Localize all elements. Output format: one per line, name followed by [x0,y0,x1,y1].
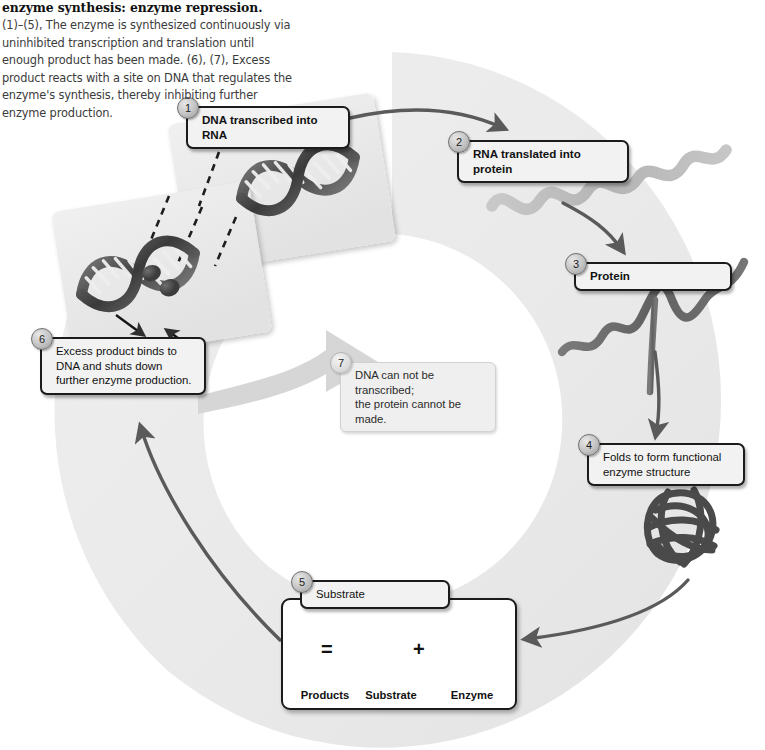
enzyme-label: Enzyme [435,689,509,701]
step-4-number: 4 [578,434,600,456]
step-6-box[interactable]: 6 Excess product binds to DNA and shuts … [40,337,206,395]
step-2-label: RNA translated into protein [473,147,617,176]
step-3-number: 3 [565,253,587,275]
step-2-box[interactable]: 2 RNA translated into protein [457,140,629,183]
step-5-number: 5 [291,571,313,593]
step-3-label: Protein [590,269,720,284]
caption-title: enzyme synthesis: enzyme repression. [2,0,292,15]
step-7-callout[interactable]: 7 DNA can not be transcribed; the protei… [340,362,496,432]
step-7-label: DNA can not be transcribed; the protein … [355,368,485,426]
caption-body: (1)–(5), The enzyme is synthesized conti… [2,17,292,123]
step-4-box[interactable]: 4 Folds to form functional enzyme struct… [587,443,745,486]
step-2-number: 2 [448,131,470,153]
equals-sign: = [321,638,333,661]
step-5-callout[interactable]: 5 Substrate [300,580,450,609]
figure-caption: enzyme synthesis: enzyme repression. (1)… [2,0,292,123]
step-4-callout[interactable]: 4 Folds to form functional enzyme struct… [587,443,745,486]
diagram-stage: enzyme synthesis: enzyme repression. (1)… [0,0,765,750]
step-6-label: Excess product binds to DNA and shuts do… [56,344,194,388]
plus-sign: + [413,638,425,661]
step-2-callout[interactable]: 2 RNA translated into protein [457,140,629,183]
substrate-label: Substrate [345,689,437,701]
step-7-box[interactable]: 7 DNA can not be transcribed; the protei… [340,362,496,432]
step-7-number: 7 [330,352,352,374]
step-5-label: Substrate [316,587,438,602]
step-6-callout[interactable]: 6 Excess product binds to DNA and shuts … [40,337,206,395]
step-5-box[interactable]: 5 Substrate [300,580,450,609]
step-3-callout[interactable]: 3 Protein [574,262,732,291]
step-4-label: Folds to form functional enzyme structur… [603,450,733,479]
step-3-box[interactable]: 3 Protein [574,262,732,291]
step-6-number: 6 [31,328,53,350]
reaction-panel: = + Products Substrate Enzyme [281,598,517,710]
